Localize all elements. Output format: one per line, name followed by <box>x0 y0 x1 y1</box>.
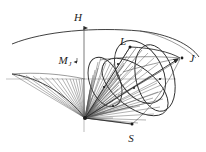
label-M-subscript: J <box>69 60 73 67</box>
left-cone-hatching <box>12 74 85 118</box>
label-L: L <box>119 35 126 47</box>
label-M: M <box>57 54 68 66</box>
L-cone-rim <box>104 32 176 113</box>
label-J: J <box>190 52 196 64</box>
label-S: S <box>128 132 134 144</box>
precession-cone-diagram: H M J L J S <box>0 0 206 152</box>
label-H: H <box>73 11 83 23</box>
figure-root: H M J L J S <box>0 0 206 152</box>
